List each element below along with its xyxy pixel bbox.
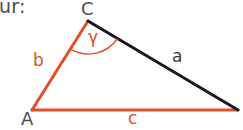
triangle-side-a — [88, 21, 238, 110]
vertex-label-a: A — [21, 110, 33, 128]
figure-canvas: ur: C A a b c γ — [0, 0, 243, 130]
angle-label-gamma: γ — [88, 29, 98, 46]
caption-text-fragment: ur: — [0, 0, 26, 16]
side-label-c: c — [128, 110, 137, 127]
vertex-label-c: C — [81, 0, 94, 18]
side-label-b: b — [33, 52, 44, 69]
side-label-a: a — [172, 48, 182, 65]
